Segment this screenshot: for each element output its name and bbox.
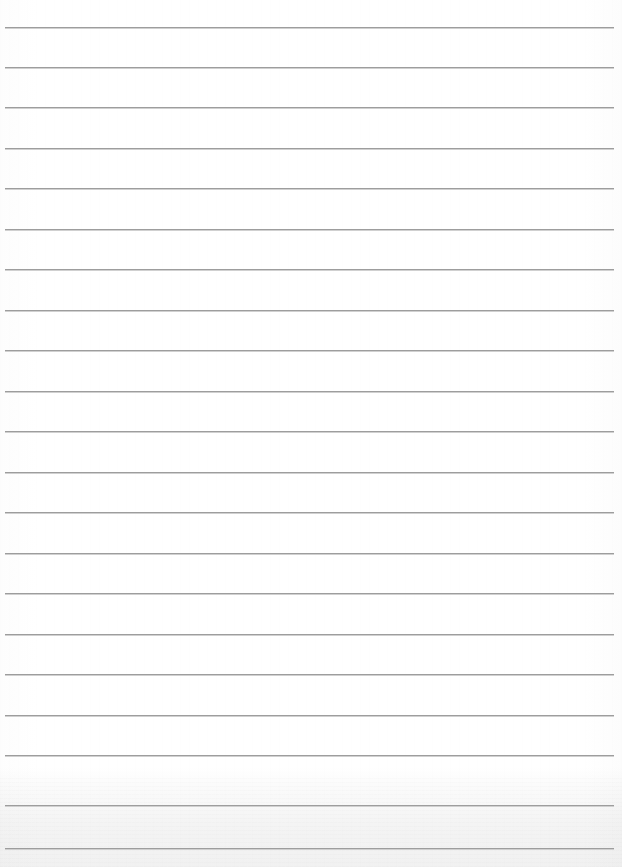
ruled-line bbox=[5, 848, 614, 849]
ruled-line bbox=[5, 755, 614, 756]
ruled-line bbox=[5, 107, 614, 108]
ruled-line bbox=[5, 269, 614, 270]
writing-area[interactable] bbox=[0, 0, 622, 867]
ruled-line bbox=[5, 674, 614, 675]
ruled-line bbox=[5, 472, 614, 473]
ruled-line bbox=[5, 188, 614, 189]
ruled-line bbox=[5, 67, 614, 68]
ruled-line bbox=[5, 715, 614, 716]
ruled-line bbox=[5, 27, 614, 28]
ruled-line bbox=[5, 593, 614, 594]
ruled-line bbox=[5, 391, 614, 392]
ruled-line bbox=[5, 229, 614, 230]
ruled-line bbox=[5, 431, 614, 432]
ruled-line bbox=[5, 350, 614, 351]
ruled-line bbox=[5, 512, 614, 513]
ruled-line bbox=[5, 148, 614, 149]
ruled-line bbox=[5, 805, 614, 806]
ruled-line bbox=[5, 634, 614, 635]
lined-paper-page bbox=[0, 0, 622, 867]
ruled-line bbox=[5, 553, 614, 554]
ruled-line bbox=[5, 310, 614, 311]
